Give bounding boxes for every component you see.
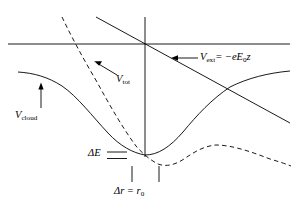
label-delta-r: Δr = r0 xyxy=(114,186,144,198)
label-delta-r-symbol: Δr = r xyxy=(114,185,141,196)
label-v-ext-equals: = −eE xyxy=(215,51,243,62)
label-v-ext: Vext= −eE0z xyxy=(200,52,251,64)
curve-v-ext xyxy=(96,17,290,123)
label-v-ext-tail: z xyxy=(247,51,251,62)
label-v-tot: Vtot xyxy=(116,74,130,86)
label-v-ext-subscript: ext xyxy=(206,56,215,64)
label-delta-r-subscript: 0 xyxy=(141,190,145,198)
potential-energy-diagram: Vext= −eE0z Vtot Vcloud ΔE Δr = r0 xyxy=(0,0,296,207)
label-v-cloud-subscript: cloud xyxy=(21,114,37,122)
v-tot-leader-arrow xyxy=(94,61,117,75)
delta-e-level-marks xyxy=(107,152,127,159)
label-delta-e-symbol: ΔE xyxy=(88,147,101,158)
v-cloud-leader-arrow xyxy=(38,83,43,109)
plot-canvas xyxy=(0,0,296,207)
label-v-cloud: Vcloud xyxy=(15,110,37,122)
delta-r-tick-marks xyxy=(132,166,159,182)
label-delta-e: ΔE xyxy=(88,148,101,159)
curve-v-tot xyxy=(62,17,291,166)
label-v-tot-subscript: tot xyxy=(122,78,130,86)
curve-v-cloud xyxy=(18,71,290,155)
